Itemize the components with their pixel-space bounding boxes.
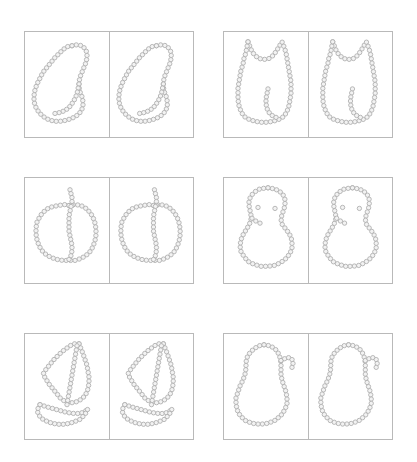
dot-path-bunny-outline [238,186,294,269]
shape-dot [353,120,357,124]
shape-dot [243,372,247,376]
shape-dot [66,398,70,402]
shape-dot [69,237,73,241]
shape-dot [69,204,73,208]
shape-dot [262,57,266,61]
shape-dot [154,401,158,405]
subpanel-cat-original [224,32,308,137]
shape-dot [54,204,58,208]
shape-dot [177,238,181,242]
shape-dot [94,233,98,237]
shape-dot [117,101,121,105]
shape-dot [289,87,293,91]
shape-dot [74,348,78,352]
shape-dot [154,377,158,381]
shape-dot [76,86,80,90]
shape-dot [329,359,333,363]
shape-dot [152,233,156,237]
shape-dot [321,91,325,95]
shape-dot [348,264,352,268]
shape-dot [154,241,158,245]
shape-dot [340,422,344,426]
shape-dot [32,101,36,105]
shape-dot [154,245,158,249]
shape-dot [259,120,263,124]
shape-dot [34,233,38,237]
shape-dot [357,206,361,210]
shape-dot [77,78,81,82]
shape-dot [137,422,141,426]
shape-dot [170,366,174,370]
shape-dot [323,108,327,112]
shape-dot [367,197,371,201]
shape-dot [349,421,353,425]
shape-dot [346,186,350,190]
shape-dot [50,205,54,209]
shape-dot [71,369,75,373]
shape-dot [152,386,156,390]
shape-dot [81,103,85,107]
shape-dot [156,411,160,415]
shape-dot [238,245,242,249]
shape-dot [287,100,291,104]
shape-dot [352,264,356,268]
shape-dot [257,187,261,191]
shape-dot [151,225,155,229]
shape-dot [171,379,175,383]
shape-dot [137,111,141,115]
shape-dot [256,422,260,426]
shape-dot [258,343,262,347]
shape-dot [151,390,155,394]
dot-path-pear-outline [319,343,374,427]
shape-dot [265,421,269,425]
shape-dot [84,49,88,53]
shape-dot [268,264,272,268]
shape-dot [121,241,125,245]
shape-dot [283,388,287,392]
shape-dot [285,397,289,401]
shape-dot [364,214,368,218]
shape-dot [65,402,69,406]
shape-dot [67,117,71,121]
shape-dot [290,246,294,250]
shape-dot [67,390,71,394]
shape-dot [236,99,240,103]
shape-dot [319,404,323,408]
shape-dot [171,383,175,387]
shape-dot [236,82,240,86]
shape-dot [154,420,158,424]
shape-dot [67,212,71,216]
shape-dot [235,409,239,413]
shape-dot [342,343,346,347]
shape-dot [150,44,154,48]
shape-dot [85,366,89,370]
dot-path-apple-seam [67,204,74,261]
shape-dot [151,229,155,233]
shape-dot [61,422,65,426]
shape-dot [284,52,288,56]
shape-dot [53,111,57,115]
dot-path-cat-tail [348,87,362,120]
shape-dot [289,91,293,95]
shape-dot [321,99,325,103]
shape-dot [244,363,248,367]
shape-dot [74,43,78,47]
subpanel-sailboat-reconstruction [109,334,193,439]
shape-dot [240,65,244,69]
subpanel-bunny-original [224,178,308,283]
shape-dot [332,204,336,208]
shape-dot [258,221,262,225]
figure-canvas [0,0,417,462]
shape-dot [86,383,90,387]
shape-dot [367,201,371,205]
shape-dot [69,241,73,245]
dot-path-bunny-eye-left [256,205,260,209]
shape-dot [324,249,328,253]
shape-dot [58,119,62,123]
subpanel-apple-original [25,178,109,283]
shape-dot [288,95,292,99]
shape-dot [369,397,373,401]
shape-dot [330,44,334,48]
shape-dot [270,186,274,190]
shape-dot [284,393,288,397]
